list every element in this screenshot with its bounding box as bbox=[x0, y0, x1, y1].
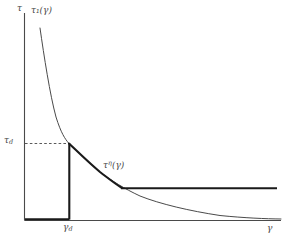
figure-container: τ τ₁(γ) τd τη(γ) γd γ bbox=[0, 0, 293, 246]
tau-d-tick-label: τd bbox=[4, 136, 13, 146]
thin-curve-tau1 bbox=[40, 28, 281, 219]
gamma-d-tick-label: γd bbox=[63, 223, 73, 233]
x-axis-label: γ bbox=[267, 224, 272, 233]
plot-canvas bbox=[0, 0, 293, 246]
thin-curve-label: τ₁(γ) bbox=[31, 6, 52, 15]
y-axis-label: τ bbox=[17, 4, 22, 13]
tau-d-subscript: d bbox=[9, 138, 13, 146]
gamma-d-subscript: d bbox=[68, 225, 72, 233]
bold-curve-label: τη(γ) bbox=[103, 160, 124, 170]
bold-curve-argument: (γ) bbox=[112, 160, 124, 170]
